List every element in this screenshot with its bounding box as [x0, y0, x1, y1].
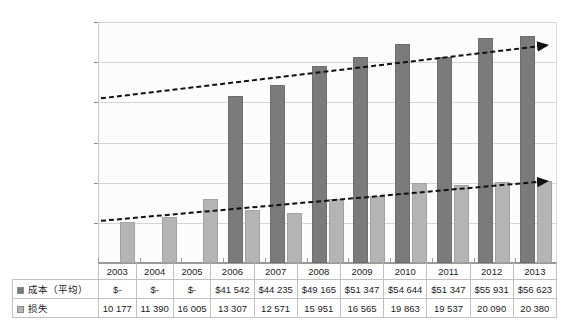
bar-loss — [370, 196, 385, 263]
table-cell: $- — [173, 280, 211, 299]
table-cell: $44 235 — [254, 280, 297, 299]
table-cell: 19 863 — [384, 299, 427, 318]
table-cell: $- — [136, 280, 173, 299]
table-cell: 11 390 — [136, 299, 173, 318]
y-axis-tick — [94, 223, 98, 224]
y-axis-tick — [94, 102, 98, 103]
data-table: 2003200420052006200720082009201020112012… — [12, 263, 557, 318]
table-cell: 19 537 — [427, 299, 470, 318]
gridline — [98, 22, 557, 23]
table-row: 成本（平均）$-$-$-$41 542$44 235$49 165$51 347… — [13, 280, 557, 299]
table-year-header: 2004 — [136, 264, 173, 280]
bar-cost — [478, 38, 493, 263]
table-year-header: 2010 — [384, 264, 427, 280]
table-cell: $49 165 — [297, 280, 340, 299]
bar-loss — [495, 182, 510, 263]
table-cell: 13 307 — [211, 299, 254, 318]
bar-cost — [395, 44, 410, 263]
bar-cost — [437, 57, 452, 263]
series-name: 损失 — [28, 303, 48, 314]
table-cell: 10 177 — [99, 299, 137, 318]
bar-loss — [120, 222, 135, 263]
chart-container: 010 00020 00030 00040 00050 00060 000 20… — [0, 0, 569, 331]
bar-loss — [412, 183, 427, 263]
bar-loss — [203, 199, 218, 263]
table-cell: $51 347 — [427, 280, 470, 299]
legend-loss-swatch-icon — [17, 306, 24, 313]
y-axis-tick — [94, 183, 98, 184]
legend-cost-swatch-icon — [17, 287, 24, 294]
table-cell: $- — [99, 280, 137, 299]
plot-area — [98, 22, 557, 263]
table-year-header: 2003 — [99, 264, 137, 280]
bar-loss — [287, 213, 302, 263]
table-year-header: 2006 — [211, 264, 254, 280]
bar-loss — [162, 217, 177, 263]
bar-cost — [228, 96, 243, 263]
table-cell: 16 565 — [340, 299, 383, 318]
bar-loss — [454, 185, 469, 263]
table-year-header: 2012 — [470, 264, 513, 280]
bar-cost — [520, 36, 535, 263]
y-axis-tick — [94, 143, 98, 144]
table-row-label: 损失 — [13, 299, 99, 318]
table-cell: 16 005 — [173, 299, 211, 318]
table-year-header: 2013 — [513, 264, 556, 280]
bar-cost — [353, 57, 368, 263]
table-cell: $54 644 — [384, 280, 427, 299]
table-cell: $51 347 — [340, 280, 383, 299]
table-cell: 20 090 — [470, 299, 513, 318]
bar-loss — [329, 199, 344, 263]
table-cell: $41 542 — [211, 280, 254, 299]
bar-loss — [245, 210, 260, 263]
table-cell: $55 931 — [470, 280, 513, 299]
table-corner-cell — [13, 264, 99, 280]
bar-cost — [270, 85, 285, 263]
series-name: 成本（平均） — [28, 284, 88, 295]
table-year-header: 2007 — [254, 264, 297, 280]
bar-loss — [537, 181, 552, 263]
table-cell: $56 623 — [513, 280, 556, 299]
y-axis-tick — [94, 62, 98, 63]
bar-cost — [312, 66, 327, 263]
table-row-label: 成本（平均） — [13, 280, 99, 299]
table-cell: 15 951 — [297, 299, 340, 318]
table-row: 损失10 17711 39016 00513 30712 57115 95116… — [13, 299, 557, 318]
table-cell: 12 571 — [254, 299, 297, 318]
table-year-header: 2009 — [340, 264, 383, 280]
table-year-header: 2008 — [297, 264, 340, 280]
table-cell: 20 380 — [513, 299, 556, 318]
table-year-header: 2011 — [427, 264, 470, 280]
y-axis-tick — [94, 22, 98, 23]
table-header-row: 2003200420052006200720082009201020112012… — [13, 264, 557, 280]
table-year-header: 2005 — [173, 264, 211, 280]
